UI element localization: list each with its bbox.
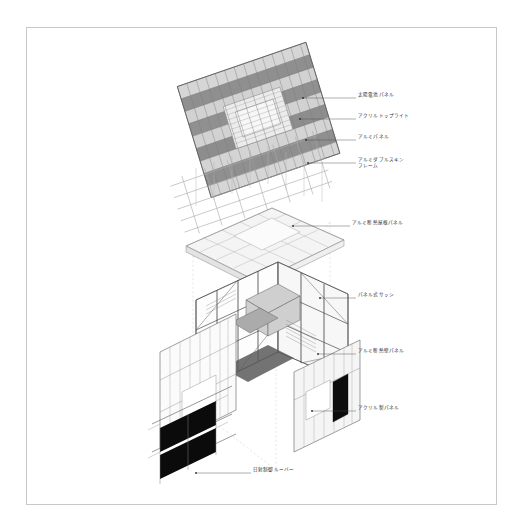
- annotation-label-insulated-roof: アルミ断熱屋根パネル: [352, 220, 404, 226]
- leader-dot-insulated-wall: [317, 353, 319, 355]
- annotation-label-insulated-wall: アルミ断熱壁パネル: [358, 348, 404, 354]
- leader-dot-insulated-roof: [292, 225, 294, 227]
- annotation-label-solar-panel: 太陽電池パネル: [358, 92, 394, 98]
- exploded-axonometric-drawing: [0, 0, 525, 531]
- annotation-label-acrylic-toplight: アクリルトップライト: [358, 113, 410, 119]
- leader-dot-double-skin-frame: [307, 162, 309, 164]
- leader-dot-aluminum-panel: [305, 139, 307, 141]
- leader-dot-acrylic-toplight: [299, 118, 301, 120]
- leader-dot-solar-panel: [302, 97, 304, 99]
- annotation-label-aluminum-panel: アルミパネル: [358, 134, 389, 140]
- annotation-label-acrylic-panel: アクリル製パネル: [358, 405, 399, 411]
- annotation-label-panel-sash: パネル式サッシ: [358, 292, 394, 298]
- leader-dot-acrylic-panel: [311, 410, 313, 412]
- leader-dot-sun-control-louver: [195, 472, 197, 474]
- drawing-sheet: 太陽電池パネルアクリルトップライトアルミパネルアルミダブルスキン フレームアルミ…: [0, 0, 525, 531]
- leader-dot-panel-sash: [319, 297, 321, 299]
- acrylic-panel-element: [333, 374, 348, 422]
- annotation-label-sun-control-louver: 日射制御ルーバー: [253, 467, 294, 473]
- annotation-label-double-skin-frame: アルミダブルスキン フレーム: [358, 157, 404, 169]
